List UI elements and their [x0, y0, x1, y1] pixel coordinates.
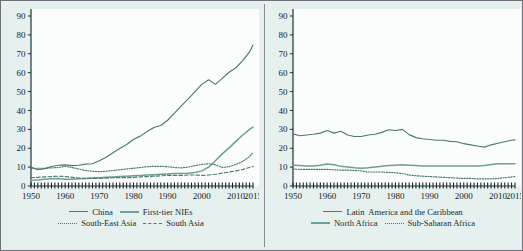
- legend-swatch-icon: [385, 223, 404, 224]
- legend-item: South-East Asia: [58, 218, 136, 229]
- legend-label: South Asia: [166, 218, 203, 229]
- svg-text:1950: 1950: [284, 191, 303, 201]
- svg-text:50: 50: [279, 87, 289, 97]
- svg-text:80: 80: [279, 30, 289, 40]
- svg-text:1950: 1950: [22, 191, 41, 201]
- legend-label: Sub-Saharan Africa: [408, 218, 476, 229]
- legend-swatch-icon: [311, 222, 330, 224]
- chart-panel-right: 0102030405060708090195019601970198019902…: [264, 4, 520, 247]
- svg-text:80: 80: [17, 30, 27, 40]
- chart-panel-left: 0102030405060708090195019601970198019902…: [3, 4, 259, 247]
- legend-item: Sub-Saharan Africa: [385, 218, 476, 229]
- svg-text:30: 30: [279, 124, 289, 134]
- plot-area-left: 0102030405060708090195019601970198019902…: [3, 4, 259, 209]
- svg-text:1970: 1970: [352, 191, 371, 201]
- legend-label: First-tier NIEs: [143, 207, 193, 218]
- svg-text:70: 70: [17, 49, 27, 59]
- line-chart-right: 0102030405060708090195019601970198019902…: [265, 4, 521, 209]
- legend-label: Latin America and the Caribbean: [346, 207, 462, 218]
- svg-text:40: 40: [279, 106, 289, 116]
- svg-text:1960: 1960: [56, 191, 75, 201]
- figure-container: 0102030405060708090195019601970198019902…: [0, 0, 523, 251]
- legend-swatch-icon: [323, 211, 342, 212]
- plot-area-right: 0102030405060708090195019601970198019902…: [265, 4, 521, 209]
- svg-text:10: 10: [279, 162, 289, 172]
- legend-item: First-tier NIEs: [120, 207, 193, 218]
- svg-text:1990: 1990: [421, 191, 440, 201]
- legend-right: Latin America and the CaribbeanNorth Afr…: [265, 207, 521, 230]
- legend-row: North AfricaSub-Saharan Africa: [265, 218, 521, 229]
- svg-text:2015: 2015: [244, 191, 259, 201]
- legend-swatch-icon: [143, 223, 162, 224]
- svg-text:0: 0: [283, 181, 288, 191]
- legend-row: South-East AsiaSouth Asia: [3, 218, 259, 229]
- svg-text:20: 20: [17, 143, 27, 153]
- legend-label: South-East Asia: [81, 218, 136, 229]
- svg-text:2015: 2015: [506, 191, 521, 201]
- legend-swatch-icon: [58, 223, 77, 224]
- svg-text:1980: 1980: [386, 191, 405, 201]
- svg-text:1980: 1980: [124, 191, 143, 201]
- svg-text:20: 20: [279, 143, 289, 153]
- svg-text:90: 90: [17, 11, 27, 21]
- svg-text:2000: 2000: [193, 191, 212, 201]
- legend-left: ChinaFirst-tier NIEsSouth-East AsiaSouth…: [3, 207, 259, 230]
- svg-text:40: 40: [17, 106, 27, 116]
- legend-item: Latin America and the Caribbean: [323, 207, 462, 218]
- legend-swatch-icon: [69, 211, 88, 212]
- svg-text:30: 30: [17, 124, 27, 134]
- svg-text:90: 90: [279, 11, 289, 21]
- svg-text:1990: 1990: [159, 191, 178, 201]
- legend-swatch-icon: [120, 211, 139, 213]
- svg-text:0: 0: [21, 181, 26, 191]
- line-chart-left: 0102030405060708090195019601970198019902…: [3, 4, 259, 209]
- legend-row: Latin America and the Caribbean: [265, 207, 521, 218]
- legend-item: North Africa: [311, 218, 378, 229]
- legend-item: South Asia: [143, 218, 203, 229]
- svg-text:10: 10: [17, 162, 27, 172]
- svg-text:1970: 1970: [90, 191, 109, 201]
- svg-text:50: 50: [17, 87, 27, 97]
- svg-text:1960: 1960: [318, 191, 337, 201]
- svg-text:60: 60: [279, 68, 289, 78]
- legend-row: ChinaFirst-tier NIEs: [3, 207, 259, 218]
- svg-text:2010: 2010: [227, 191, 246, 201]
- svg-text:60: 60: [17, 68, 27, 78]
- svg-text:2000: 2000: [455, 191, 474, 201]
- legend-item: China: [69, 207, 113, 218]
- legend-label: China: [92, 207, 113, 218]
- svg-text:70: 70: [279, 49, 289, 59]
- legend-label: North Africa: [334, 218, 378, 229]
- svg-text:2010: 2010: [489, 191, 508, 201]
